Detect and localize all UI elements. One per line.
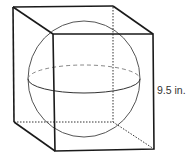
sphere-outline — [28, 21, 140, 137]
cube-edge-back-left — [13, 7, 14, 122]
cube-edge-top-left-depth — [13, 7, 53, 34]
cube-edge-bottom-left-depth — [14, 122, 55, 151]
cube-hidden-edge-bottom-right — [113, 122, 154, 149]
dimension-label: 9.5 in. — [157, 84, 186, 96]
equator-hidden-arc — [28, 65, 140, 79]
cube-edge-top-right-depth — [113, 6, 153, 34]
equator-visible-arc — [28, 79, 140, 93]
cube-edge-back-top — [13, 6, 113, 7]
sphere-in-cube-diagram: 9.5 in. — [0, 0, 193, 161]
